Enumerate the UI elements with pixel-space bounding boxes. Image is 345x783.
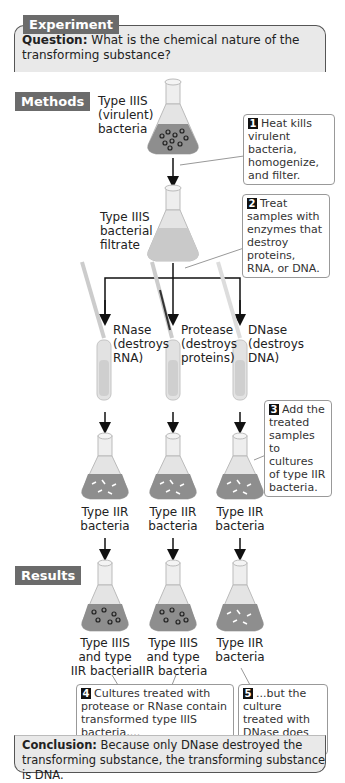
tube-rnase-icon [97, 340, 111, 400]
step-number: 4 [81, 688, 91, 699]
label-line: and type [70, 650, 140, 664]
flask-filtrate-label: Type IIIS bacterial filtrate [100, 210, 153, 252]
enzyme-label-rnase: RNase (destroys RNA) [113, 323, 169, 365]
step-3-callout: 3Add the treated samples to cultures of … [264, 400, 332, 497]
label-line: Type IIIS [98, 94, 153, 108]
label-line: Type IIIS [100, 210, 153, 224]
enzyme-label-protease: Protease (destroys proteins) [181, 323, 237, 365]
label-line: proteins) [181, 351, 237, 365]
label-line: Type IIR [210, 505, 270, 519]
label-line: (destroys [248, 337, 304, 351]
label-line: (virulent) [98, 108, 153, 122]
label-line: RNA) [113, 351, 169, 365]
culture-flask-1-icon [82, 433, 129, 499]
step-2-callout: 2Treat samples with enzymes that destroy… [242, 194, 330, 278]
culture-label-3: Type IIRbacteria [210, 505, 270, 533]
label-line: IIR bacteria [138, 664, 208, 678]
result-flask-3-icon [217, 560, 264, 631]
step-number: 5 [243, 688, 253, 699]
result-label-3: Type IIRbacteria [210, 636, 270, 664]
label-line: (destroys [113, 337, 169, 351]
step-text: Treat samples with enzymes that destroy … [247, 197, 322, 275]
step-number: 1 [248, 118, 258, 129]
label-line: bacteria [210, 650, 270, 664]
flask-virulent-label: Type IIIS (virulent) bacteria [98, 94, 153, 136]
result-flask-1-icon [82, 560, 129, 631]
culture-label-1: Type IIRbacteria [75, 505, 135, 533]
label-line: (destroys [181, 337, 237, 351]
label-line: bacteria [98, 122, 153, 136]
label-line: and type [138, 650, 208, 664]
enzyme-name: Protease [181, 323, 237, 337]
label-line: DNA) [248, 351, 304, 365]
conclusion-label: Conclusion: [22, 738, 97, 752]
conclusion-text: Conclusion: Because only DNase destroyed… [22, 738, 327, 783]
culture-flask-2-icon [150, 433, 197, 499]
step-text: Heat kills virulent bacteria, homogenize… [248, 117, 319, 182]
label-line: bacterial [100, 224, 153, 238]
label-line: bacteria [75, 519, 135, 533]
label-line: bacteria [143, 519, 203, 533]
step-4-callout: 4Cultures treated with protease or RNase… [76, 684, 234, 742]
flask-virulent-icon [148, 79, 199, 154]
result-label-2: Type IIISand typeIIR bacteria [138, 636, 208, 678]
step-text: Cultures treated with protease or RNase … [81, 687, 227, 739]
step-number: 2 [247, 198, 257, 209]
flask-filtrate-icon [148, 185, 199, 261]
culture-label-2: Type IIRbacteria [143, 505, 203, 533]
label-line: Type IIIS [138, 636, 208, 650]
label-line: Type IIR [210, 636, 270, 650]
label-line: Type IIIS [70, 636, 140, 650]
label-line: Type IIR [143, 505, 203, 519]
culture-flask-3-icon [217, 433, 264, 499]
enzyme-label-dnase: DNase (destroys DNA) [248, 323, 304, 365]
result-flask-2-icon [150, 560, 197, 631]
label-line: Type IIR [75, 505, 135, 519]
enzyme-name: DNase [248, 323, 304, 337]
label-line: bacteria [210, 519, 270, 533]
step-text: Add the treated samples to cultures of t… [269, 403, 325, 494]
label-line: filtrate [100, 238, 153, 252]
result-label-1: Type IIISand typeIIR bacteria [70, 636, 140, 678]
label-line: IIR bacteria [70, 664, 140, 678]
step-number: 3 [269, 404, 279, 415]
step-1-callout: 1Heat kills virulent bacteria, homogeniz… [243, 114, 335, 185]
enzyme-name: RNase [113, 323, 169, 337]
